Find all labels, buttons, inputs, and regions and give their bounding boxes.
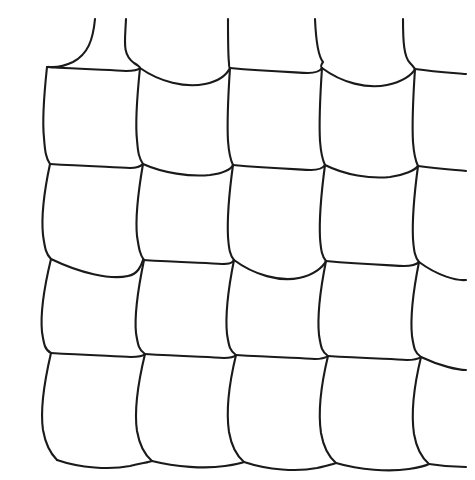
net-pattern-svg	[0, 0, 475, 480]
net-pattern-figure	[0, 0, 475, 480]
figure-background	[0, 0, 475, 480]
